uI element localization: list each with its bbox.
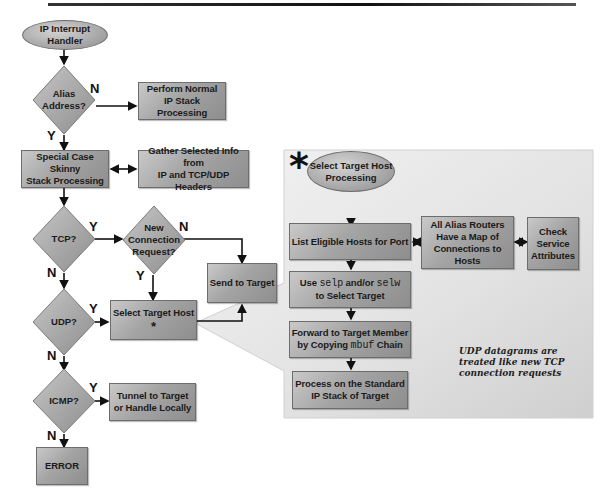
box-text: Stack Processing [26, 175, 104, 187]
box-text: Gather Selected Info from [139, 145, 248, 169]
decision-text: Request? [128, 246, 180, 258]
icmp-no-label: N [47, 428, 56, 443]
box-text: Have a Map of [436, 231, 499, 243]
decision-label: Alias Address? [42, 88, 86, 112]
box-text: All Alias Routers [431, 219, 505, 231]
oval-text: Processing [325, 172, 376, 184]
start-select-target-host-processing: Select Target Host Processing [307, 151, 395, 192]
code-selp: selp [319, 278, 343, 289]
box-gather-info: Gather Selected Info from IP and TCP/UDP… [138, 150, 249, 188]
box-text: Use selp and/or selw [300, 277, 400, 290]
decision-label: ICMP? [49, 395, 79, 407]
box-text: to Select Target [316, 290, 385, 302]
box-alias-routers-map: All Alias Routers Have a Map of Connecti… [421, 216, 514, 269]
box-text: IP Stack of Target [311, 390, 389, 402]
note-line: UDP datagrams are [459, 346, 589, 357]
box-process-standard-stack: Process on the Standard IP Stack of Targ… [292, 371, 408, 409]
box-text: IP and TCP/UDP Headers [139, 169, 248, 193]
box-tunnel-to-target: Tunnel to Target or Handle Locally [109, 383, 196, 421]
oval-text: Select Target Host [310, 160, 393, 172]
box-list-eligible-hosts: List Eligible Hosts for Port [289, 223, 411, 260]
text-fragment: by Copying [297, 339, 350, 350]
code-selw: selw [377, 278, 401, 289]
newconn-no-label: N [179, 219, 188, 234]
decision-tcp: TCP? [33, 206, 95, 272]
text-fragment: and/or [343, 277, 377, 288]
decision-text: New [128, 222, 180, 234]
asterisk-panel-marker: * [289, 151, 309, 181]
icmp-yes-label: Y [89, 380, 98, 395]
udp-no-label: N [47, 348, 56, 363]
decision-label: TCP? [52, 233, 77, 245]
decision-new-connection: New Connection Request? [123, 206, 185, 274]
box-text: Process on the Standard [295, 378, 405, 390]
box-text: Attributes [531, 250, 575, 262]
alias-yes-label: Y [47, 128, 56, 143]
asterisk-marker: * [151, 321, 156, 333]
box-check-service-attributes: Check Service Attributes [527, 217, 579, 270]
box-text: Connections to Hosts [422, 243, 513, 267]
box-text: Check [539, 226, 567, 238]
box-select-target-host: Select Target Host * [110, 300, 197, 340]
box-text: or Handle Locally [114, 402, 192, 414]
box-text: Service [536, 238, 569, 250]
note-line: connection requests [459, 368, 589, 379]
decision-udp: UDP? [33, 289, 95, 355]
box-text: Select Target Host [113, 307, 194, 319]
box-perform-normal: Perform Normal IP Stack Processing [138, 82, 226, 120]
box-forward-to-target: Forward to Target Member by Copying mbuf… [289, 321, 411, 358]
udp-yes-label: Y [89, 301, 98, 316]
decision-alias-address: Alias Address? [33, 66, 95, 134]
box-text: Special Case Skinny [22, 151, 108, 175]
box-text: IP Stack Processing [139, 95, 225, 119]
udp-note: UDP datagrams are treated like new TCP c… [459, 346, 589, 379]
box-use-selp-selw: Use selp and/or selw to Select Target [289, 271, 411, 308]
box-text: Perform Normal [147, 83, 217, 95]
text-fragment: Use [300, 277, 320, 288]
box-error: ERROR [36, 447, 88, 485]
newconn-yes-label: Y [136, 268, 145, 283]
box-text: Forward to Target Member [292, 327, 409, 339]
decision-icmp: ICMP? [33, 369, 95, 433]
start-ip-interrupt-handler: IP Interrupt Handler [22, 20, 108, 50]
box-send-to-target: Send to Target [207, 263, 277, 303]
alias-no-label: N [90, 81, 99, 96]
decision-text: Connection [128, 234, 180, 246]
text-fragment: Chain [374, 339, 402, 350]
box-special-case-skinny: Special Case Skinny Stack Processing [21, 150, 109, 188]
note-line: treated like new TCP [459, 357, 589, 368]
decision-label: UDP? [51, 316, 77, 328]
box-text: Tunnel to Target [117, 390, 188, 402]
box-text: by Copying mbuf Chain [297, 339, 402, 352]
tcp-no-label: N [47, 265, 56, 280]
tcp-yes-label: Y [89, 219, 98, 234]
decision-label: New Connection Request? [128, 222, 180, 258]
code-mbuf: mbuf [351, 340, 375, 351]
